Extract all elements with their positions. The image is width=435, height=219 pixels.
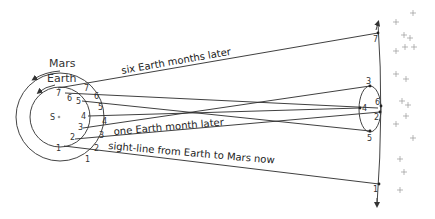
earth-label: Earth <box>47 72 77 85</box>
svg-text:S: S <box>50 113 55 122</box>
svg-text:3: 3 <box>78 123 83 132</box>
svg-text:3: 3 <box>366 77 371 86</box>
svg-text:4: 4 <box>362 104 367 113</box>
svg-text:2: 2 <box>374 113 379 122</box>
background-stars <box>393 10 417 193</box>
sky-arrow-top-icon <box>376 23 378 30</box>
svg-text:5: 5 <box>367 134 372 143</box>
svg-text:2: 2 <box>94 144 99 153</box>
svg-text:4: 4 <box>102 117 107 126</box>
svg-text:7: 7 <box>373 35 378 44</box>
caption-one-month: one Earth month later <box>113 116 225 137</box>
sun: S <box>50 113 60 122</box>
earth-position-labels: 1 2 3 4 5 6 7 <box>56 89 86 153</box>
mars-retrograde-diagram: S Mars Earth 1 2 3 4 5 6 7 1 2 3 4 5 6 7… <box>0 0 435 219</box>
svg-text:4: 4 <box>81 112 86 121</box>
sun-dot <box>58 116 61 119</box>
svg-text:6: 6 <box>67 94 72 103</box>
svg-text:7: 7 <box>56 89 61 98</box>
earth-direction-arrow-icon <box>39 85 55 92</box>
svg-text:6: 6 <box>375 98 380 107</box>
svg-text:3: 3 <box>99 131 104 140</box>
svg-text:1: 1 <box>85 155 90 164</box>
svg-text:5: 5 <box>98 103 103 112</box>
svg-text:2: 2 <box>70 133 75 142</box>
svg-text:7: 7 <box>84 84 89 93</box>
sky-position-labels: 1 2 3 4 5 6 7 <box>362 35 380 194</box>
svg-text:1: 1 <box>373 185 378 194</box>
svg-text:6: 6 <box>94 92 99 101</box>
svg-text:1: 1 <box>56 144 61 153</box>
svg-text:5: 5 <box>76 97 81 106</box>
mars-label: Mars <box>49 57 76 70</box>
